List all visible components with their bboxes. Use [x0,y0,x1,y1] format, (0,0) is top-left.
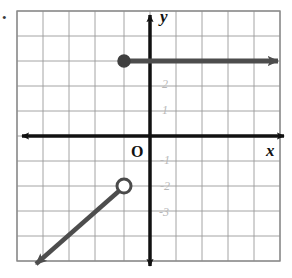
open-endpoint-marker [117,179,131,193]
pencil-tick-neg-2: -2 [160,179,170,193]
pencil-tick-neg-1: -1 [160,153,170,167]
pencil-tick-neg-3: -3 [159,205,169,219]
x-axis-label: x [265,141,275,160]
pencil-tick-2: 2 [162,77,168,91]
closed-endpoint-marker [118,55,130,67]
list-bullet-mark: • [2,10,7,25]
graph-figure: 2 1 -1 -2 -3 x y O • [0,0,292,278]
pencil-tick-1: 1 [162,103,168,117]
origin-label: O [131,143,143,160]
y-axis-label: y [158,7,168,26]
coordinate-plane-svg: 2 1 -1 -2 -3 x y O • [0,0,292,278]
